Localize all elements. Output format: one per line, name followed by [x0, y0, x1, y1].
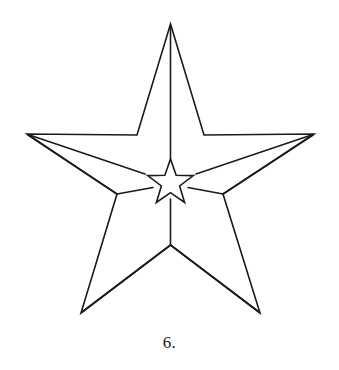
figure-caption: 6. — [0, 333, 339, 353]
figure-background — [0, 0, 339, 370]
figure-container: 6. — [0, 0, 339, 370]
star-diagram — [0, 0, 339, 370]
